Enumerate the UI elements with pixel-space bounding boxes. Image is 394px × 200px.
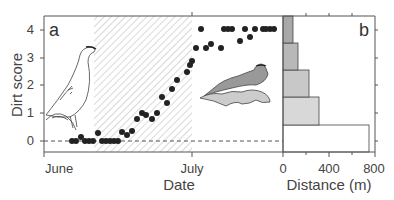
x-tick-july: July (180, 161, 204, 176)
y-tick-1: 1 (27, 105, 34, 120)
x-axis-label-date: Date (163, 176, 195, 193)
y-tick-2: 2 (27, 77, 34, 92)
panel-a: 0 1 2 3 4 Dirt score June July Date a (8, 12, 283, 193)
y-axis-label: Dirt score (8, 53, 25, 117)
x-axis-label-distance: Distance (m) (286, 176, 371, 193)
x-tick-800: 800 (363, 161, 385, 176)
bar-score-1 (283, 97, 319, 125)
figure: 0 1 2 3 4 Dirt score June July Date a (0, 0, 394, 200)
x-tick-june: June (45, 161, 73, 176)
bar-score-3 (283, 43, 298, 70)
x-tick-400: 400 (318, 161, 340, 176)
bar-score-2 (283, 70, 309, 97)
x-tick-0: 0 (279, 161, 286, 176)
white-ptarmigan-illustration (46, 47, 96, 130)
y-tick-0: 0 (27, 133, 34, 148)
panel-b-label: b (359, 20, 369, 40)
bar-score-0 (283, 125, 369, 152)
panel-a-label: a (49, 20, 60, 40)
y-tick-4: 4 (27, 22, 34, 37)
bar-score-4 (283, 16, 293, 43)
shaded-period (94, 16, 192, 152)
dirty-ptarmigan-illustration (200, 64, 270, 106)
panel-b: b 0 400 800 Distance (m) (279, 13, 384, 193)
y-tick-3: 3 (27, 50, 34, 65)
